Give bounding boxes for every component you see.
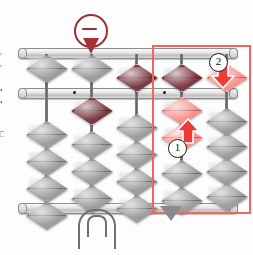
bead-lower-facet bbox=[26, 135, 68, 149]
margin-fragment-3: ▪ bbox=[0, 86, 2, 95]
bead-column-1-earth-3[interactable] bbox=[26, 175, 68, 203]
bead-seam bbox=[118, 127, 156, 128]
bead-lower-facet bbox=[26, 216, 68, 230]
bead-lower-facet bbox=[26, 162, 68, 176]
bead-seam bbox=[73, 198, 111, 199]
bead-seam bbox=[28, 215, 66, 216]
bead-upper-facet bbox=[71, 185, 113, 199]
bead-upper-facet bbox=[26, 202, 68, 216]
active-columns-highlight bbox=[152, 45, 251, 214]
bead-column-2-earth-1[interactable] bbox=[71, 97, 113, 125]
bead-seam bbox=[118, 208, 156, 209]
minus-operation-pin bbox=[74, 14, 108, 54]
bead-column-2-earth-3[interactable] bbox=[71, 158, 113, 186]
bead-seam bbox=[28, 134, 66, 135]
bead-seam bbox=[73, 68, 111, 69]
bead-upper-facet bbox=[71, 131, 113, 145]
bead-seam bbox=[118, 181, 156, 182]
abacus-illustration: ▫▫▪▪□ 12 bbox=[0, 0, 253, 255]
bead-column-2-earth-2[interactable] bbox=[71, 131, 113, 159]
margin-fragment-2: ▫ bbox=[0, 62, 2, 71]
abacus-leg-handle bbox=[78, 209, 112, 249]
bead-lower-facet bbox=[26, 69, 68, 83]
bead-lower-facet bbox=[71, 145, 113, 159]
bead-seam bbox=[73, 171, 111, 172]
bead-column-1-earth-1[interactable] bbox=[26, 121, 68, 149]
bead-seam bbox=[73, 144, 111, 145]
bead-upper-facet bbox=[26, 148, 68, 162]
bead-lower-facet bbox=[71, 172, 113, 186]
bead-upper-facet bbox=[26, 175, 68, 189]
bead-column-1-earth-4[interactable] bbox=[26, 202, 68, 230]
bead-seam bbox=[118, 154, 156, 155]
unit-dot-1 bbox=[73, 91, 76, 94]
margin-fragment-1: ▫ bbox=[0, 50, 2, 59]
bead-upper-facet bbox=[26, 55, 68, 69]
bead-upper-facet bbox=[26, 121, 68, 135]
bead-column-1-heaven-1[interactable] bbox=[26, 55, 68, 83]
mid-bar-left-cap bbox=[18, 88, 27, 99]
bead-seam bbox=[28, 68, 66, 69]
step-marker-2: 2 bbox=[209, 53, 228, 72]
pin-tail bbox=[83, 38, 99, 54]
step-marker-1: 1 bbox=[168, 139, 187, 158]
bead-seam bbox=[28, 161, 66, 162]
bead-lower-facet bbox=[71, 69, 113, 83]
column-pointer-triangle bbox=[160, 206, 182, 221]
bead-upper-facet bbox=[71, 158, 113, 172]
bead-upper-facet bbox=[71, 55, 113, 69]
margin-fragment-4: ▪ bbox=[0, 98, 2, 107]
bead-lower-facet bbox=[26, 189, 68, 203]
bead-column-1-earth-2[interactable] bbox=[26, 148, 68, 176]
margin-fragment-5: □ bbox=[0, 130, 4, 139]
bead-column-2-heaven-1[interactable] bbox=[71, 55, 113, 83]
bead-seam bbox=[28, 188, 66, 189]
leg-inner-arch bbox=[87, 215, 107, 237]
